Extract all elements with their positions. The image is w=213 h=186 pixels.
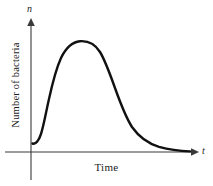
y-axis-arrowhead-icon xyxy=(27,18,35,26)
y-axis-title: Number of bacteria xyxy=(9,25,23,145)
bacteria-population-curve xyxy=(33,41,191,151)
y-axis-title-container: Number of bacteria xyxy=(9,25,23,145)
x-axis-arrowhead-icon xyxy=(191,148,199,156)
y-axis-variable-label: n xyxy=(27,4,32,14)
x-axis-title: Time xyxy=(0,161,213,173)
x-axis-variable-label: t xyxy=(202,146,205,156)
plot-canvas xyxy=(0,0,213,186)
bacteria-growth-figure: n t Time Number of bacteria xyxy=(0,0,213,186)
